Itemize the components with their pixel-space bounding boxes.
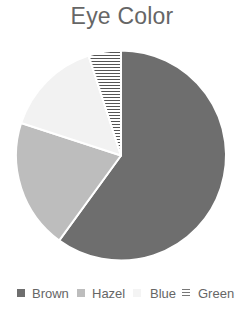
brown-swatch-icon — [17, 289, 25, 297]
legend-label: Blue — [150, 286, 176, 301]
legend-label: Green — [198, 286, 234, 301]
legend-item-green[interactable]: Green — [182, 284, 234, 302]
legend-label: Hazel — [92, 286, 125, 301]
blue-swatch-icon — [133, 289, 141, 297]
pie-slices — [16, 51, 226, 261]
legend-item-brown[interactable]: Brown — [17, 284, 69, 302]
legend-item-hazel[interactable]: Hazel — [77, 284, 125, 302]
green-stripes-swatch-icon — [182, 289, 190, 297]
legend-label: Brown — [32, 286, 69, 301]
pie-chart — [0, 0, 244, 280]
hazel-swatch-icon — [77, 289, 85, 297]
legend-item-blue[interactable]: Blue — [133, 284, 176, 302]
legend: Brown Hazel Blue Green — [0, 284, 244, 302]
